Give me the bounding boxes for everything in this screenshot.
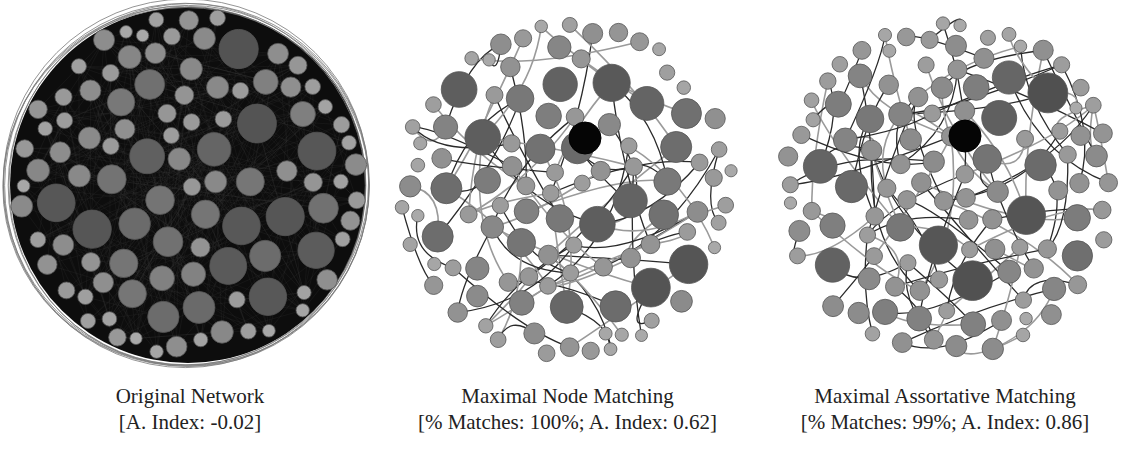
network-node	[907, 306, 932, 331]
network-node	[466, 257, 489, 280]
network-node	[1099, 174, 1117, 192]
network-node	[486, 87, 503, 104]
network-node	[945, 35, 966, 56]
network-node	[954, 19, 966, 31]
network-node	[825, 91, 851, 117]
network-node	[1086, 145, 1108, 167]
network-node	[277, 161, 298, 182]
network-node	[936, 17, 949, 30]
network-node	[441, 72, 477, 108]
network-node	[431, 173, 462, 204]
network-node	[1062, 241, 1092, 271]
network-node	[1059, 146, 1076, 163]
network-node	[432, 148, 452, 168]
network-node	[848, 302, 869, 323]
network-node	[1042, 277, 1065, 300]
network-node	[29, 100, 47, 118]
network-node	[1054, 57, 1070, 73]
network-node	[102, 64, 119, 81]
network-node	[974, 48, 994, 68]
network-node	[679, 224, 696, 241]
network-node	[491, 34, 512, 55]
network-node	[604, 343, 617, 356]
network-node	[885, 277, 904, 296]
network-node	[982, 338, 1003, 359]
network-node	[1070, 173, 1089, 192]
network-node	[50, 142, 71, 163]
network-node	[574, 175, 590, 191]
network-node	[848, 64, 872, 88]
network-node	[959, 210, 978, 229]
network-node	[16, 140, 34, 158]
network-node	[1015, 292, 1031, 308]
network-node	[183, 291, 215, 323]
network-node	[191, 238, 210, 257]
network-node	[304, 173, 322, 191]
network-node	[653, 43, 666, 56]
network-node	[191, 200, 219, 228]
network-node	[934, 192, 953, 211]
network-node	[784, 197, 796, 209]
network-node	[334, 174, 349, 189]
network-node	[27, 159, 50, 182]
network-node	[900, 129, 922, 151]
network-node	[249, 278, 286, 315]
network-node	[858, 268, 880, 290]
network-node	[550, 290, 583, 323]
network-node	[149, 12, 164, 27]
network-node	[317, 270, 337, 290]
network-node	[428, 257, 441, 270]
network-node	[38, 122, 52, 136]
network-node	[879, 75, 899, 95]
caption-subtitle: [% Matches: 100%; A. Index: 0.62]	[375, 409, 760, 435]
network-node	[309, 193, 339, 223]
network-node	[102, 138, 119, 155]
network-node	[57, 112, 73, 128]
network-node	[268, 43, 289, 64]
network-node	[1002, 27, 1016, 41]
network-node	[130, 332, 142, 344]
network-node	[872, 299, 897, 324]
network-node	[474, 167, 500, 193]
network-node	[263, 324, 276, 337]
network-node	[460, 206, 477, 223]
network-node	[181, 262, 205, 286]
network-node	[1024, 259, 1043, 278]
network-node	[538, 245, 558, 265]
network-node	[163, 127, 179, 143]
network-node	[197, 133, 231, 167]
network-node	[883, 44, 896, 57]
network-node	[562, 265, 578, 281]
network-node	[502, 156, 522, 176]
network-node	[973, 145, 1002, 174]
network-node	[345, 154, 367, 176]
network-node	[591, 161, 610, 180]
network-node	[150, 266, 175, 291]
network-node	[400, 176, 421, 197]
network-node	[671, 98, 701, 128]
caption-original: Original Network [A. Index: -0.02]	[0, 383, 380, 435]
network-node	[961, 312, 986, 337]
network-node	[80, 80, 101, 101]
network-node	[1052, 123, 1068, 139]
network-node	[266, 198, 304, 236]
network-node	[898, 191, 916, 209]
network-node	[318, 100, 332, 114]
network-node	[81, 253, 100, 272]
network-node	[1085, 97, 1101, 113]
network-node	[963, 75, 989, 101]
network-node	[1070, 102, 1082, 114]
network-node	[535, 20, 548, 33]
network-node	[53, 234, 74, 255]
network-node	[506, 85, 534, 113]
network-node	[335, 232, 350, 247]
network-node	[789, 220, 810, 241]
network-node	[501, 57, 520, 76]
network-node	[803, 202, 820, 219]
network-node	[253, 69, 278, 94]
network-node	[600, 291, 631, 322]
network-node	[297, 285, 311, 299]
network-node	[110, 249, 138, 277]
network-node	[448, 303, 468, 323]
network-node	[957, 188, 976, 207]
